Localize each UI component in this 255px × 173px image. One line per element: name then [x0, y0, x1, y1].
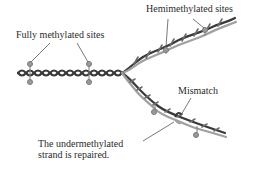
upper-daughter-duplex [122, 18, 236, 73]
label-mismatch: Mismatch [178, 85, 218, 96]
label-hemimethylated-sites: Hemimethylated sites [146, 3, 233, 14]
dna-replication-diagram: Fully methylated sites Hemimethylated si… [0, 0, 255, 173]
label-fully-methylated-sites: Fully methylated sites [16, 29, 104, 40]
parental-duplex [18, 71, 122, 76]
lower-daughter-duplex [122, 73, 226, 137]
label-undermethylated-line1: The undermethylated [38, 138, 123, 149]
label-undermethylated-line2: strand is repaired. [38, 149, 109, 160]
